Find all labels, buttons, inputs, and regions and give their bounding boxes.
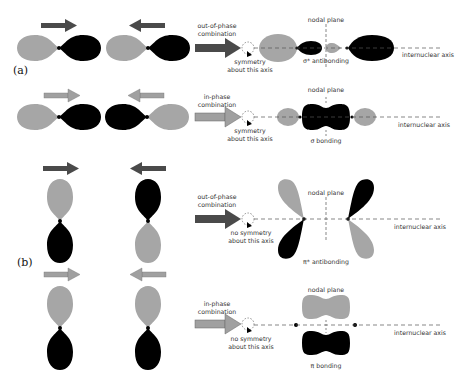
a-row1-result-label: σ* antibonding xyxy=(300,57,352,65)
a-row2-result-label: σ bonding xyxy=(304,137,348,145)
b-row1-combination-label: out-of-phase combination xyxy=(192,193,242,208)
b-row2-nodal-plane-label: nodal plane xyxy=(306,286,346,294)
b-row1-p-orbital-2 xyxy=(135,179,161,263)
b-row1-p-orbital-1 xyxy=(47,179,73,263)
b-row2-result-label: π bonding xyxy=(304,362,348,370)
b-row2-symmetry-icon xyxy=(242,318,254,333)
a-row2-symmetry-icon xyxy=(242,111,254,126)
b-row1-result-label: π* antibonding xyxy=(300,258,352,266)
a-row2-p-orbital-2 xyxy=(105,104,189,130)
b-row1-arrow-right xyxy=(43,162,79,175)
b-row2-combination-arrow xyxy=(195,314,241,334)
part-a-label: (a) xyxy=(13,64,28,77)
a-row2-axis-label: internuclear axis xyxy=(394,121,454,129)
b-row1-axis-label: internuclear axis xyxy=(390,223,450,231)
a-row1-nodal-plane-label: nodal plane xyxy=(306,16,346,24)
b-row2-axis-label: internuclear axis xyxy=(390,329,450,337)
a-row1-p-orbital-2 xyxy=(106,35,190,61)
a-row1-axis-label: internuclear axis xyxy=(398,51,458,59)
b-row1-arrow-left xyxy=(130,162,166,175)
a-row1-arrow-left xyxy=(129,19,165,32)
a-row2-nodal-plane-label: nodal plane xyxy=(306,86,346,94)
a-row2-symmetry-label: symmetry about this axis xyxy=(225,127,275,142)
a-row2-arrow-right xyxy=(44,89,80,102)
b-row1-nodal-plane-label: nodal plane xyxy=(306,189,346,197)
b-row2-arrow-left xyxy=(130,268,166,281)
a-row2-combination-label: in-phase combination xyxy=(192,93,242,108)
part-b-label: (b) xyxy=(17,256,33,269)
b-row1-symmetry-icon xyxy=(242,213,254,228)
a-row1-combination-label: out-of-phase combination xyxy=(192,22,242,37)
b-row1-symmetry-label: no symmetry about this axis xyxy=(225,229,277,244)
b-row2-combination-label: in-phase combination xyxy=(192,300,242,315)
a-row1-arrow-right xyxy=(41,19,77,32)
b-row2-symmetry-label: no symmetry about this axis xyxy=(225,335,277,350)
a-row1-symmetry-label: symmetry about this axis xyxy=(225,58,275,73)
b-row2-arrow-right xyxy=(44,268,80,281)
a-row2-combination-arrow xyxy=(195,107,241,127)
b-row2-p-orbital-2 xyxy=(135,286,161,370)
a-row1-combination-arrow xyxy=(195,38,241,58)
a-row2-p-orbital-1 xyxy=(17,104,101,130)
a-row1-p-orbital-1 xyxy=(17,35,101,61)
a-row2-arrow-left xyxy=(128,89,164,102)
a-row1-symmetry-icon xyxy=(242,42,254,57)
b-row2-p-orbital-1 xyxy=(47,286,73,370)
b-row1-combination-arrow xyxy=(195,209,241,229)
